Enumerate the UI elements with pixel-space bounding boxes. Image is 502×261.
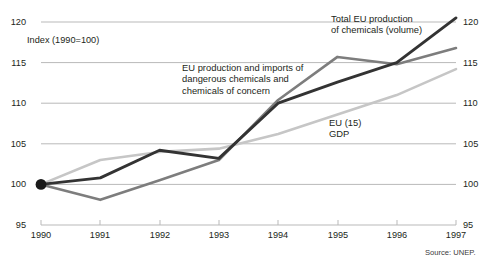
xtick-label-1997: 1997 — [436, 230, 476, 240]
annotation-total-eu-production-line1: Total EU production — [331, 13, 422, 24]
x-axis-ticks — [41, 220, 456, 225]
xtick-label-1996: 1996 — [377, 230, 417, 240]
source-note: Source: UNEP. — [425, 248, 476, 257]
ytick-label-left-100: 100 — [2, 179, 26, 189]
annotation-total-eu-production-line2: of chemicals (volume) — [331, 24, 422, 35]
chart-container: 120 115 110 105 100 95 120 115 110 105 1… — [0, 0, 502, 261]
annotation-eu15-gdp-line2: GDP — [329, 128, 361, 139]
xtick-label-1995: 1995 — [318, 230, 358, 240]
ytick-label-left-110: 110 — [2, 98, 26, 108]
xtick-label-1992: 1992 — [140, 230, 180, 240]
ytick-label-right-100: 100 — [463, 179, 489, 189]
annotation-dangerous-chemicals: EU production and imports of dangerous c… — [182, 62, 303, 96]
ytick-label-left-95: 95 — [2, 220, 26, 230]
ytick-label-left-115: 115 — [2, 58, 26, 68]
annotation-dangerous-chemicals-line2: dangerous chemicals and — [182, 73, 303, 84]
ytick-label-right-115: 115 — [463, 58, 489, 68]
origin-dot — [36, 179, 47, 190]
ytick-label-right-105: 105 — [463, 139, 489, 149]
annotation-eu15-gdp-line1: EU (15) — [329, 117, 361, 128]
xtick-label-1990: 1990 — [21, 230, 61, 240]
ytick-label-left-120: 120 — [2, 17, 26, 27]
annotation-dangerous-chemicals-line1: EU production and imports of — [182, 62, 303, 73]
ytick-label-left-105: 105 — [2, 139, 26, 149]
xtick-label-1993: 1993 — [199, 230, 239, 240]
ytick-label-right-110: 110 — [463, 98, 489, 108]
series-lines — [41, 18, 456, 200]
annotation-dangerous-chemicals-line3: chemicals of concern — [182, 85, 303, 96]
ytick-label-right-120: 120 — [463, 17, 489, 27]
ytick-label-right-95: 95 — [463, 220, 489, 230]
annotation-eu15-gdp: EU (15) GDP — [329, 117, 361, 140]
origin-marker-group — [36, 179, 47, 190]
gridlines — [41, 22, 456, 225]
y-axis-index-note: Index (1990=100) — [27, 35, 99, 45]
xtick-label-1994: 1994 — [258, 230, 298, 240]
xtick-label-1991: 1991 — [80, 230, 120, 240]
annotation-total-eu-production: Total EU production of chemicals (volume… — [331, 13, 422, 36]
